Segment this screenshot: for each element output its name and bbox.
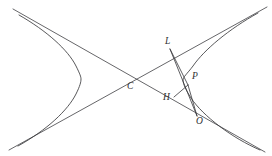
segment-H-P xyxy=(174,85,188,97)
label-point-O: O xyxy=(196,117,203,127)
figure-canvas xyxy=(0,0,272,156)
asymptote-descending xyxy=(13,9,265,152)
hyperbola-right-branch xyxy=(183,13,260,150)
segment-L-P xyxy=(170,49,188,85)
hyperbola-figure: C L P H O xyxy=(0,0,272,156)
label-point-P: P xyxy=(192,72,198,82)
hyperbola-left-branch xyxy=(18,15,81,146)
segment-P-O xyxy=(188,85,197,116)
label-point-H: H xyxy=(163,93,170,103)
label-point-L: L xyxy=(165,37,170,47)
label-point-C: C xyxy=(127,82,133,92)
